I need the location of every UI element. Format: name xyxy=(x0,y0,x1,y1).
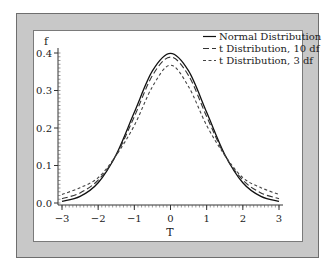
x-axis-label: T xyxy=(166,226,174,239)
series-lines xyxy=(62,53,279,201)
ticks: 0.00.10.20.30.4−3−2−10123 xyxy=(36,48,282,225)
series-line-dashed xyxy=(62,57,279,199)
x-tick-label: 2 xyxy=(240,213,246,224)
legend-entry: t Distribution, 3 df xyxy=(219,55,314,66)
legend-entry: Normal Distribution xyxy=(219,31,322,42)
y-tick-label: 0.4 xyxy=(36,48,52,59)
series-line-solid xyxy=(62,53,279,201)
y-tick-label: 0.1 xyxy=(36,160,52,171)
x-tick-label: 1 xyxy=(203,213,209,224)
legend-entry: t Distribution, 10 df xyxy=(219,43,321,54)
y-tick-label: 0.2 xyxy=(36,123,52,134)
y-tick-label: 0.3 xyxy=(36,85,52,96)
y-axis-label: f xyxy=(44,35,49,48)
chart: 0.00.10.20.30.4−3−2−10123 f T Normal Dis… xyxy=(0,0,336,271)
y-tick-label: 0.0 xyxy=(36,198,52,209)
x-tick-label: −2 xyxy=(91,213,106,224)
x-tick-label: −3 xyxy=(55,213,70,224)
series-line-dotted xyxy=(62,65,279,194)
axes xyxy=(58,48,283,205)
x-tick-label: 0 xyxy=(167,213,173,224)
x-tick-label: 3 xyxy=(276,213,282,224)
legend: Normal Distributiont Distribution, 10 df… xyxy=(203,31,322,66)
x-tick-label: −1 xyxy=(127,213,142,224)
